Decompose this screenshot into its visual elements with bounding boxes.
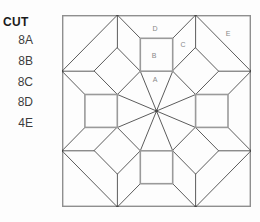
piece-label-c: C — [180, 41, 185, 48]
cut-list: CUT 8A 8B 8C 8D 4E — [0, 14, 33, 134]
square-b-right — [196, 95, 228, 128]
piece-labels: DBCAE — [152, 25, 231, 83]
cut-item-8c: 8C — [0, 72, 33, 93]
cut-item-8b: 8B — [0, 51, 33, 72]
quilt-block-diagram: DBCAE — [62, 15, 251, 207]
piece-label-e: E — [226, 30, 231, 37]
piece-label-b: B — [152, 52, 157, 59]
piece-label-a: A — [153, 76, 158, 83]
junction-dots — [62, 15, 251, 207]
square-b-left — [85, 95, 117, 128]
cut-item-8a: 8A — [0, 30, 33, 51]
square-b-top — [140, 38, 172, 71]
cut-list-title: CUT — [3, 14, 33, 30]
square-b-bottom — [140, 151, 172, 184]
cut-item-4e: 4E — [0, 113, 33, 134]
quilt-block-svg: DBCAE — [62, 15, 251, 207]
cut-item-8d: 8D — [0, 92, 33, 113]
piece-label-d: D — [152, 25, 157, 32]
